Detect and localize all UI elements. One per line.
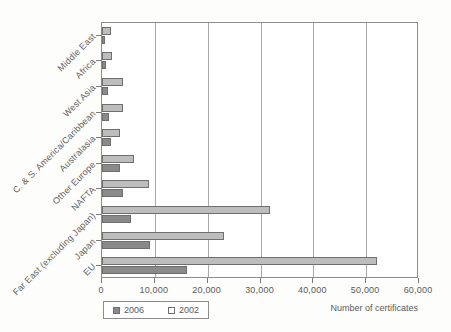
bar-2002 xyxy=(102,232,224,240)
bar-2002 xyxy=(102,206,270,214)
y-axis-tick xyxy=(96,214,101,215)
bar-2002 xyxy=(102,104,123,112)
bar-2002 xyxy=(102,129,120,137)
y-axis-tick xyxy=(96,240,101,241)
x-axis-tick xyxy=(365,278,366,283)
y-axis-tick xyxy=(96,188,101,189)
x-axis-tick xyxy=(418,278,419,283)
x-axis-tick-label: 0 xyxy=(98,285,103,295)
y-axis-tick xyxy=(96,163,101,164)
x-axis-tick-label: 10,000 xyxy=(139,285,168,295)
x-axis-tick xyxy=(101,278,102,283)
category-label: EU xyxy=(81,262,97,278)
x-axis-tick-label: 50,000 xyxy=(351,285,380,295)
bar-chart: Middle EastAfricaWest AsiaC. & S. Americ… xyxy=(0,0,451,332)
y-axis-tick xyxy=(96,86,101,87)
legend-label-2006: 2006 xyxy=(124,305,144,315)
chart-legend: 2006 2002 xyxy=(103,301,209,319)
y-axis-tick xyxy=(96,112,101,113)
legend-swatch-icon-2002 xyxy=(168,307,175,314)
bar-rows xyxy=(102,23,417,277)
bar-2002 xyxy=(102,257,377,265)
bar-group xyxy=(102,78,417,104)
x-axis-tick-label: 20,000 xyxy=(192,285,221,295)
bar-group xyxy=(102,155,417,181)
x-axis-tick xyxy=(207,278,208,283)
x-axis-tick xyxy=(312,278,313,283)
bar-2006 xyxy=(102,266,187,274)
category-label: Africa xyxy=(73,57,97,81)
y-axis-tick xyxy=(96,137,101,138)
bar-group xyxy=(102,129,417,155)
y-axis-tick xyxy=(96,35,101,36)
y-axis-tick xyxy=(96,265,101,266)
bar-group xyxy=(102,104,417,130)
bar-group xyxy=(102,232,417,258)
bar-2006 xyxy=(102,215,131,223)
legend-swatch-icon-2006 xyxy=(113,307,120,314)
x-axis-tick-label: 30,000 xyxy=(245,285,274,295)
plot-area xyxy=(101,22,418,278)
bar-2002 xyxy=(102,52,112,60)
x-axis-tick-label: 60,000 xyxy=(404,285,433,295)
bar-2002 xyxy=(102,180,149,188)
bar-2006 xyxy=(102,61,106,69)
legend-item-2002: 2002 xyxy=(168,305,199,315)
bar-group xyxy=(102,180,417,206)
x-axis-title: Number of certificates xyxy=(330,303,418,313)
bar-2002 xyxy=(102,155,134,163)
x-axis-tick xyxy=(154,278,155,283)
bar-2002 xyxy=(102,27,111,35)
bar-2006 xyxy=(102,241,150,249)
bar-2006 xyxy=(102,87,108,95)
bar-2002 xyxy=(102,78,123,86)
category-label: Japan xyxy=(72,236,97,261)
bar-group xyxy=(102,27,417,53)
x-axis-tick xyxy=(260,278,261,283)
legend-label-2002: 2002 xyxy=(179,305,199,315)
legend-item-2006: 2006 xyxy=(113,305,144,315)
bar-2006 xyxy=(102,164,120,172)
y-axis-tick xyxy=(96,60,101,61)
bar-2006 xyxy=(102,138,111,146)
bar-2006 xyxy=(102,189,123,197)
bar-2006 xyxy=(102,36,105,44)
bar-group xyxy=(102,206,417,232)
bar-2006 xyxy=(102,113,109,121)
x-axis-tick-label: 40,000 xyxy=(298,285,327,295)
bar-group xyxy=(102,52,417,78)
